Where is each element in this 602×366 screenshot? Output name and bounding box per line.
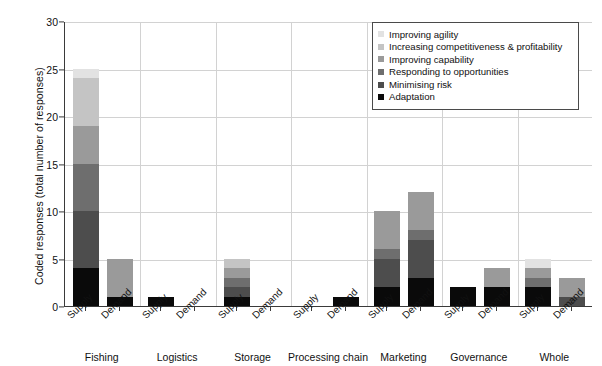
bar-segment bbox=[408, 240, 434, 278]
legend-label: Improving agility bbox=[389, 30, 458, 40]
y-tick-mark bbox=[59, 116, 64, 117]
x-group-label-marketing: Marketing bbox=[380, 351, 426, 363]
bar-segment bbox=[73, 69, 99, 79]
x-axis-labels: SupplyDemandSupplyDemandSupplyDemandSupp… bbox=[64, 307, 592, 366]
y-tick-mark bbox=[59, 211, 64, 212]
bar-segment bbox=[73, 164, 99, 212]
bar-segment bbox=[374, 211, 400, 249]
legend-item: Increasing competitiveness & profitabili… bbox=[378, 41, 572, 54]
legend-item: Improving agility bbox=[378, 28, 572, 41]
legend-label: Improving capability bbox=[389, 55, 474, 65]
x-group-label-logistics: Logistics bbox=[157, 351, 198, 363]
bar-segment bbox=[525, 278, 551, 288]
y-tick-label: 0 bbox=[18, 301, 58, 313]
bar-segment bbox=[374, 249, 400, 259]
legend-swatch-icon bbox=[378, 69, 384, 75]
legend-label: Responding to opportunities bbox=[389, 67, 508, 77]
legend-label: Minimising risk bbox=[389, 80, 452, 90]
bar-segment bbox=[73, 211, 99, 268]
legend-item: Improving capability bbox=[378, 53, 572, 66]
bar-segment bbox=[224, 268, 250, 278]
bar-segment bbox=[408, 230, 434, 239]
legend-label: Increasing competitiveness & profitabili… bbox=[389, 42, 562, 52]
stacked-bar-chart: Coded responses (total number of respons… bbox=[0, 0, 602, 366]
y-tick-mark bbox=[59, 69, 64, 70]
legend-swatch-icon bbox=[378, 31, 384, 37]
legend-swatch-icon bbox=[378, 56, 384, 62]
x-group-label-processing-chain: Processing chain bbox=[288, 351, 368, 363]
chart-legend: Improving agilityIncreasing competitiven… bbox=[372, 22, 579, 110]
bar-segment bbox=[73, 78, 99, 126]
y-tick-label: 5 bbox=[18, 254, 58, 266]
bar-segment bbox=[224, 259, 250, 269]
x-group-label-whole: Whole bbox=[539, 351, 569, 363]
bar-segment bbox=[408, 192, 434, 230]
bar-segment bbox=[484, 268, 510, 287]
bar-segment bbox=[73, 126, 99, 164]
y-tick-mark bbox=[59, 21, 64, 22]
legend-item: Minimising risk bbox=[378, 78, 572, 91]
y-tick-label: 20 bbox=[18, 111, 58, 123]
legend-item: Adaptation bbox=[378, 91, 572, 104]
bar-marketing-demand bbox=[408, 192, 434, 306]
bar-segment bbox=[224, 278, 250, 288]
y-tick-mark bbox=[59, 259, 64, 260]
bar-fishing-supply bbox=[73, 69, 99, 307]
legend-swatch-icon bbox=[378, 94, 384, 100]
bar-segment bbox=[525, 259, 551, 269]
x-group-label-fishing: Fishing bbox=[85, 351, 119, 363]
legend-item: Responding to opportunities bbox=[378, 66, 572, 79]
y-tick-label: 25 bbox=[18, 64, 58, 76]
bar-segment bbox=[374, 259, 400, 288]
y-tick-label: 30 bbox=[18, 16, 58, 28]
x-group-label-governance: Governance bbox=[450, 351, 507, 363]
bar-segment bbox=[525, 268, 551, 278]
legend-swatch-icon bbox=[378, 82, 384, 88]
legend-label: Adaptation bbox=[389, 92, 435, 102]
legend-swatch-icon bbox=[378, 44, 384, 50]
y-tick-mark bbox=[59, 164, 64, 165]
y-tick-label: 15 bbox=[18, 159, 58, 171]
y-tick-label: 10 bbox=[18, 206, 58, 218]
x-group-label-storage: Storage bbox=[234, 351, 271, 363]
